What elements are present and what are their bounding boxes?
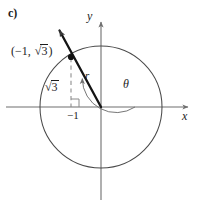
vertical-leg-length-label: √3 xyxy=(44,80,59,93)
part-label: c) xyxy=(8,6,17,21)
paren-close: ) xyxy=(48,44,52,58)
x-coordinate-value: −1, xyxy=(15,44,31,58)
radicand-value: 3 xyxy=(51,80,59,93)
radicand-value: 3 xyxy=(40,44,48,57)
terminal-point-dot xyxy=(68,54,74,60)
right-angle-marker xyxy=(71,99,79,107)
sqrt-three-expression-leg: √3 xyxy=(44,80,59,93)
polar-coordinate-figure: c) (−1, √3) √3 −1 r θ x y xyxy=(0,0,198,205)
sqrt-three-expression: √3 xyxy=(34,44,49,57)
figure-canvas xyxy=(0,0,198,205)
radius-ray xyxy=(60,31,102,108)
point-coordinates-label: (−1, √3) xyxy=(11,44,52,57)
x-axis-label: x xyxy=(182,110,187,122)
radius-label: r xyxy=(85,70,89,81)
angle-theta-label: θ xyxy=(123,78,129,90)
y-axis-label: y xyxy=(87,10,92,22)
x-intercept-label: −1 xyxy=(67,110,79,121)
